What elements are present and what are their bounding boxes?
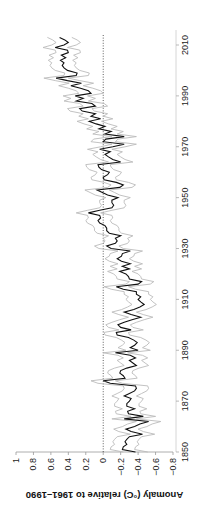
- value-tick-label: 0.4: [63, 458, 73, 471]
- annual-anomaly-line: [55, 37, 148, 452]
- value-tick-label: 1: [11, 458, 21, 463]
- year-tick-label: 1870: [180, 391, 190, 411]
- value-axis-title: Anomaly (°C) relative to 1961–1990: [26, 490, 183, 501]
- year-tick-label: 1910: [180, 289, 190, 309]
- year-tick-label: 1850: [180, 442, 190, 462]
- value-tick-label: −0.6: [151, 458, 161, 476]
- year-tick-label: 1930: [180, 238, 190, 258]
- value-axis: −0.8−0.6−0.4−0.200.20.40.60.81: [11, 452, 178, 476]
- value-tick-label: 0: [98, 458, 108, 463]
- value-tick-label: 0.8: [28, 458, 38, 471]
- year-tick-label: 1890: [180, 340, 190, 360]
- value-tick-label: 0.6: [46, 458, 56, 471]
- value-tick-label: 0.2: [81, 458, 91, 471]
- temperature-anomaly-chart: −0.8−0.6−0.4−0.200.20.40.60.81 185018701…: [0, 0, 208, 531]
- value-tick-label: −0.8: [168, 458, 178, 476]
- year-tick-label: 1990: [180, 86, 190, 106]
- year-tick-label: 2010: [180, 35, 190, 55]
- year-axis: 185018701890191019301950197019902010: [176, 30, 190, 462]
- year-tick-label: 1950: [180, 188, 190, 208]
- value-tick-label: −0.2: [116, 458, 126, 476]
- year-tick-label: 1970: [180, 137, 190, 157]
- value-tick-label: −0.4: [133, 458, 143, 476]
